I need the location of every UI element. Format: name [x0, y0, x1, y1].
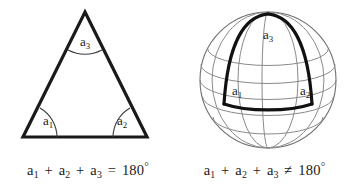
- geometry-comparison-figure: a1 a2 a3 a1 + a2 + a3 = 180°: [0, 0, 353, 190]
- euclidean-triangle-panel: a1 a2 a3 a1 + a2 + a3 = 180°: [0, 0, 176, 190]
- latitude-line: [201, 65, 335, 84]
- triangle-outline: [23, 12, 147, 137]
- plane-triangle-diagram: [0, 0, 176, 160]
- latitude-line-equator: [200, 80, 336, 100]
- spherical-base: [224, 104, 312, 110]
- angle-label-a2: a2: [117, 114, 127, 129]
- angle-label-a3: a3: [80, 35, 90, 50]
- sphere-angle-label-a3: a3: [263, 28, 273, 43]
- sphere-angle-label-a2: a2: [300, 84, 310, 99]
- spherical-caption: a1 + a2 + a3 ≠ 180°: [176, 160, 353, 180]
- spherical-side-left: [224, 14, 268, 104]
- sphere-angle-label-a1: a1: [232, 84, 242, 99]
- spherical-triangle-panel: a1 a2 a3 a1 + a2 + a3 ≠ 180°: [176, 0, 353, 190]
- latitude-lines: [200, 49, 336, 134]
- latitude-line: [213, 117, 323, 134]
- euclidean-caption: a1 + a2 + a3 = 180°: [0, 160, 176, 180]
- latitude-line: [208, 49, 329, 66]
- sphere-diagram: [176, 0, 353, 160]
- angle-label-a1: a1: [43, 114, 53, 129]
